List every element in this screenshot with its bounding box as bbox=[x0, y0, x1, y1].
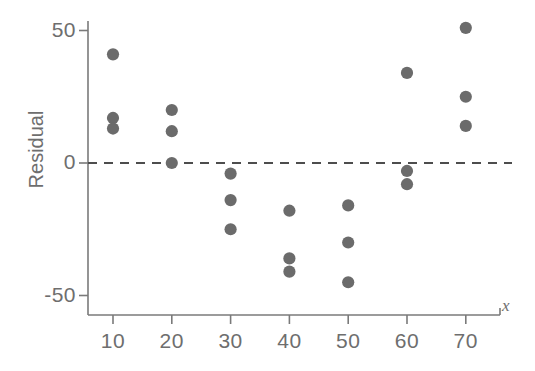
y-tick-label: -50 bbox=[18, 283, 76, 307]
x-tick-label: 60 bbox=[377, 329, 437, 353]
plot-canvas bbox=[0, 0, 535, 371]
x-tick-label: 50 bbox=[318, 329, 378, 353]
y-tick-label: 50 bbox=[18, 18, 76, 42]
y-tick-label: 0 bbox=[18, 150, 76, 174]
x-axis-title: x bbox=[502, 296, 510, 316]
x-tick-label: 30 bbox=[201, 329, 261, 353]
x-tick-label: 20 bbox=[142, 329, 202, 353]
x-tick-label: 70 bbox=[436, 329, 496, 353]
x-tick-label: 10 bbox=[83, 329, 143, 353]
axis-ticks bbox=[79, 31, 500, 325]
data-points bbox=[107, 22, 472, 289]
residual-plot-figure: Residual x 500-50 10203040506070 bbox=[0, 0, 535, 371]
x-tick-label: 40 bbox=[259, 329, 319, 353]
